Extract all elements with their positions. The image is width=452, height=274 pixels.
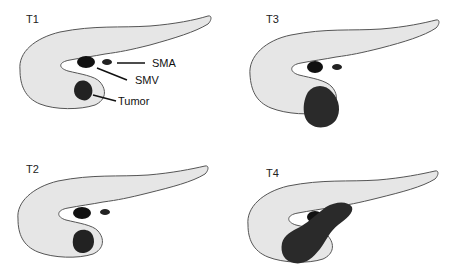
pancreas-outline xyxy=(18,166,208,257)
smv-vessel xyxy=(73,207,91,219)
pancreas-outline xyxy=(20,16,211,109)
smv-label: SMV xyxy=(135,74,160,86)
panel-t1: T1 SMA SMV Tumor xyxy=(0,0,226,137)
smv-leader-line xyxy=(97,68,127,80)
sma-vessel xyxy=(102,59,112,65)
panel-t4: T4 xyxy=(226,137,452,274)
tumor-mass xyxy=(73,230,94,253)
smv-vessel xyxy=(307,61,323,73)
panel-t2: T2 xyxy=(0,137,226,274)
pancreas-diagram-t4 xyxy=(226,137,452,274)
pancreas-diagram-t2 xyxy=(0,137,226,274)
caption-fragment xyxy=(0,264,200,274)
panel-t3: T3 xyxy=(226,0,452,137)
pancreas-outline xyxy=(250,20,439,114)
pancreas-diagram-t3 xyxy=(226,0,452,137)
tumor-label: Tumor xyxy=(118,95,150,107)
sma-vessel xyxy=(332,64,342,70)
sma-label: SMA xyxy=(152,57,177,69)
sma-vessel xyxy=(100,209,110,215)
pancreas-diagram-t1: SMA SMV Tumor xyxy=(0,0,226,137)
smv-vessel xyxy=(77,56,95,68)
